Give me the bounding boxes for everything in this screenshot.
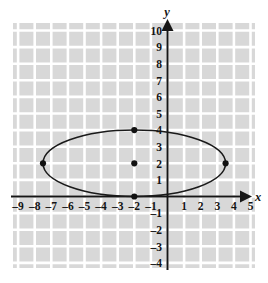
y-tick-label: 5	[156, 108, 162, 120]
y-axis-name-label: y	[162, 5, 170, 19]
ellipse-coordinate-plot: –9–8–7–6–5–4–3–2–11234510987654321–1–2–3…	[0, 0, 268, 283]
y-tick-label: 3	[156, 141, 162, 153]
x-tick-label: 2	[198, 200, 204, 212]
x-tick-label: 5	[248, 200, 254, 212]
x-tick-label: –7	[45, 200, 58, 212]
x-tick-label: –8	[28, 200, 41, 212]
x-tick-label: 4	[231, 200, 237, 212]
y-tick-label: 8	[156, 58, 162, 70]
data-point-top-covertex	[131, 127, 137, 133]
y-tick-label: –4	[150, 257, 163, 269]
y-tick-label: 9	[156, 41, 162, 53]
coordinate-graph-figure: –9–8–7–6–5–4–3–2–11234510987654321–1–2–3…	[0, 0, 268, 283]
x-tick-label: –5	[78, 200, 91, 212]
x-tick-label: –4	[94, 200, 107, 212]
x-axis-name-label: x	[254, 190, 261, 204]
x-tick-label: –9	[11, 200, 24, 212]
y-tick-label: –2	[150, 224, 163, 236]
y-tick-label: 7	[156, 75, 162, 87]
x-tick-label: 1	[181, 200, 187, 212]
y-tick-label: 2	[156, 158, 162, 170]
y-tick-label: 4	[156, 124, 162, 136]
data-point-center	[131, 160, 137, 166]
x-tick-label: 3	[214, 200, 220, 212]
y-tick-label: 6	[156, 91, 162, 103]
x-tick-label: –2	[128, 200, 141, 212]
data-point-left-vertex	[40, 160, 46, 166]
grid-layer	[13, 23, 255, 268]
y-tick-label: –1	[150, 207, 163, 219]
y-tick-label: 10	[151, 25, 163, 37]
y-tick-label: –3	[150, 241, 163, 253]
x-tick-label: –3	[111, 200, 124, 212]
y-tick-label: 1	[156, 174, 162, 186]
x-tick-label: –6	[61, 200, 74, 212]
data-point-right-vertex	[223, 160, 229, 166]
data-point-bottom-covertex	[131, 193, 137, 199]
